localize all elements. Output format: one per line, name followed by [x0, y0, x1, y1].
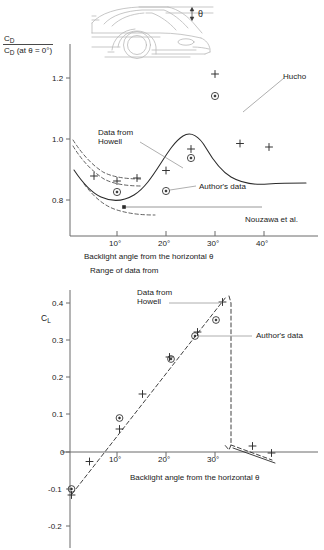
annotation-data-from-howell-lift: Data from Howell: [137, 288, 197, 306]
author-lift-line: [72, 296, 272, 494]
lift-xtick-20: 20°: [158, 455, 170, 464]
lift-ytick--0.1: -0.1: [48, 485, 62, 494]
lift-ytick--0.2: -0.2: [48, 522, 62, 531]
lift-ytick-0.4: 0.4: [52, 299, 63, 308]
annotation-authors-data-lift: Author's data: [256, 331, 303, 340]
author-lift-tail: [233, 448, 275, 463]
lift-ytick-0.3: 0.3: [52, 336, 63, 345]
lift-ytick-0.1: 0.1: [52, 410, 63, 419]
howell-plus-markers-lift: [68, 299, 275, 499]
lift-xtick-10: 10°: [109, 455, 121, 464]
lift-xtick-30: 30°: [207, 455, 219, 464]
author-circle-markers-lift: [68, 317, 219, 493]
aerodynamics-figure: θ CD CD (at θ = 0°): [0, 0, 324, 550]
lift-ytick-0.2: 0.2: [52, 373, 63, 382]
howell-lift-line2: Howell: [137, 297, 161, 306]
lift-chart-x-axis-label: Backlight angle from the horizontal θ: [130, 473, 259, 482]
howell-lift-line1: Data from: [137, 288, 172, 297]
lift-chart-plot: [0, 0, 324, 550]
lift-ytick-0: 0: [60, 448, 64, 457]
